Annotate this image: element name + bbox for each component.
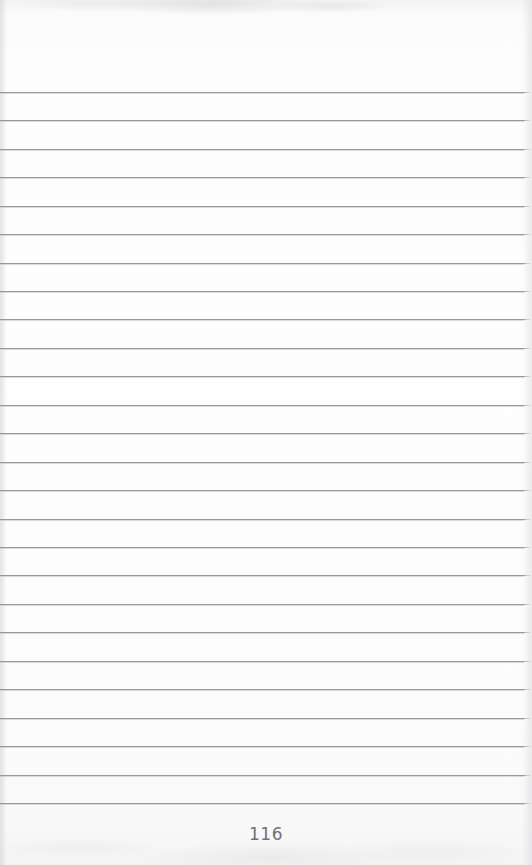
rule-line	[0, 632, 524, 633]
rule-line	[0, 775, 524, 776]
rule-line	[0, 120, 524, 121]
rule-line	[0, 575, 524, 576]
rule-line	[0, 376, 524, 377]
rule-line	[0, 746, 524, 747]
rule-line	[0, 803, 524, 804]
rule-line	[0, 348, 524, 349]
rule-line	[0, 462, 524, 463]
rule-line	[0, 661, 524, 662]
ruled-lines-group	[0, 0, 532, 865]
rule-line	[0, 433, 524, 434]
rule-line	[0, 149, 524, 150]
rule-line	[0, 547, 524, 548]
rule-line	[0, 92, 524, 93]
rule-line	[0, 206, 524, 207]
rule-line	[0, 319, 524, 320]
rule-line	[0, 177, 524, 178]
rule-line	[0, 490, 524, 491]
rule-line	[0, 405, 524, 406]
rule-line	[0, 718, 524, 719]
rule-line	[0, 604, 524, 605]
rule-line	[0, 234, 524, 235]
rule-line	[0, 263, 524, 264]
rule-line	[0, 689, 524, 690]
page-number: 116	[0, 824, 532, 844]
rule-line	[0, 519, 524, 520]
rule-line	[0, 291, 524, 292]
scanned-page: 116	[0, 0, 532, 865]
